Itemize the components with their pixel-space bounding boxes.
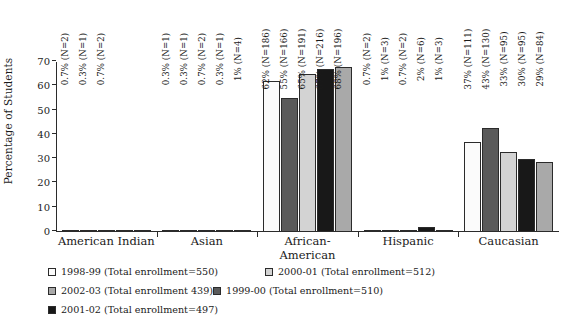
bar-value-label: 0.7% (N=2)	[60, 33, 70, 85]
bar-slot: 0.7% (N=2)	[400, 62, 417, 232]
bar-value-label: 65% (N=191)	[297, 29, 307, 90]
bar-slot	[134, 62, 151, 232]
bar-slot: 0.3% (N=1)	[80, 62, 97, 232]
bar[interactable]: 0.7% (N=2)	[364, 230, 381, 232]
bar[interactable]: 0.3% (N=1)	[80, 230, 97, 232]
bar[interactable]: 37% (N=111)	[464, 142, 481, 232]
bar[interactable]: 1% (N=4)	[234, 230, 251, 232]
bar-value-label: 62% (N=186)	[261, 29, 271, 90]
bar-group: 37% (N=111)43% (N=130)33% (N=95)30% (N=9…	[458, 62, 559, 232]
bar[interactable]: 65% (N=191)	[299, 74, 316, 232]
bar-value-label: 29% (N=84)	[535, 31, 545, 86]
bar[interactable]: 0.7% (N=2)	[62, 230, 79, 232]
bar[interactable]: 2% (N=6)	[418, 227, 435, 232]
legend-swatch-icon	[48, 287, 56, 295]
category-label: Hispanic	[358, 234, 459, 252]
bar[interactable]: 33% (N=95)	[500, 152, 517, 232]
bar-value-label: 0.7% (N=2)	[96, 33, 106, 85]
bar[interactable]	[116, 230, 133, 232]
bar[interactable]: 55% (N=166)	[281, 98, 298, 232]
bar[interactable]: 67% (N=216)	[317, 69, 334, 232]
bar[interactable]: 0.7% (N=2)	[98, 230, 115, 232]
bar-value-label: 33% (N=95)	[499, 31, 509, 86]
bar-value-label: 68% (N=196)	[333, 29, 343, 90]
legend-swatch-icon	[48, 306, 56, 314]
bar-value-label: 1% (N=3)	[434, 37, 444, 81]
bar-value-label: 67% (N=216)	[315, 29, 325, 90]
bar-value-label: 1% (N=4)	[233, 37, 243, 81]
y-tick-label: 10	[28, 203, 50, 212]
bar[interactable]: 1% (N=3)	[382, 230, 399, 232]
category-label: African-American	[257, 234, 358, 252]
bar[interactable]	[134, 230, 151, 232]
bar-slot: 30% (N=95)	[518, 62, 535, 232]
bar-slot: 33% (N=95)	[500, 62, 517, 232]
bar[interactable]: 0.7% (N=2)	[400, 230, 417, 232]
legend-item[interactable]: 1999-00 (Total enrollment=510)	[213, 281, 430, 300]
bar[interactable]: 29% (N=84)	[536, 162, 553, 232]
bar-slot: 0.7% (N=2)	[364, 62, 381, 232]
y-tick-label: 70	[28, 57, 50, 66]
legend-item[interactable]: 2000-01 (Total enrollment=512)	[265, 262, 440, 281]
category-label: American Indian	[56, 234, 157, 252]
y-tick-label: 40	[28, 130, 50, 139]
bar-slot: 43% (N=130)	[482, 62, 499, 232]
y-axis-title: Percentage of Students	[2, 0, 18, 46]
chart-legend: 1998-99 (Total enrollment=550)2000-01 (T…	[48, 262, 563, 319]
bar-slot: 1% (N=3)	[382, 62, 399, 232]
bar-value-label: 0.7% (N=2)	[362, 33, 372, 85]
bar-groups: 0.7% (N=2)0.3% (N=1)0.7% (N=2)0.3% (N=1)…	[56, 62, 559, 232]
bar-slot: 0.7% (N=2)	[198, 62, 215, 232]
bar-value-label: 1% (N=3)	[380, 37, 390, 81]
y-tick-label: 20	[28, 178, 50, 187]
legend-label: 2001-02 (Total enrollment=497)	[61, 304, 218, 315]
bar[interactable]: 0.3% (N=1)	[216, 230, 233, 232]
bar-slot: 29% (N=84)	[536, 62, 553, 232]
bar-slot: 0.3% (N=1)	[162, 62, 179, 232]
bar-value-label: 0.3% (N=1)	[78, 33, 88, 85]
legend-item[interactable]: 2002-03 (Total enrollment 439)	[48, 281, 213, 300]
legend-item[interactable]: 1998-99 (Total enrollment=550)	[48, 262, 265, 281]
bar-slot: 2% (N=6)	[418, 62, 435, 232]
legend-item[interactable]: 2001-02 (Total enrollment=497)	[48, 300, 223, 319]
bar[interactable]: 0.3% (N=1)	[180, 230, 197, 232]
y-tick-mark	[52, 60, 56, 61]
bar-slot: 0.7% (N=2)	[98, 62, 115, 232]
bar[interactable]: 1% (N=3)	[436, 230, 453, 232]
bar[interactable]: 30% (N=95)	[518, 159, 535, 232]
bar-value-label: 55% (N=166)	[279, 29, 289, 90]
bar[interactable]: 43% (N=130)	[482, 128, 499, 232]
y-tick-label: 60	[28, 81, 50, 90]
bar[interactable]: 62% (N=186)	[263, 81, 280, 232]
bar-group: 62% (N=186)55% (N=166)65% (N=191)67% (N=…	[257, 62, 358, 232]
y-tick-label: 30	[28, 154, 50, 163]
bar-slot: 67% (N=216)	[317, 62, 334, 232]
legend-label: 2000-01 (Total enrollment=512)	[278, 266, 435, 277]
bar-slot: 0.3% (N=1)	[216, 62, 233, 232]
plot-area: 010203040506070 0.7% (N=2)0.3% (N=1)0.7%…	[56, 62, 559, 232]
bar-group: 0.7% (N=2)1% (N=3)0.7% (N=2)2% (N=6)1% (…	[358, 62, 459, 232]
bar[interactable]: 0.7% (N=2)	[198, 230, 215, 232]
bar-value-label: 0.3% (N=1)	[215, 33, 225, 85]
bar-value-label: 0.3% (N=1)	[161, 33, 171, 85]
bar-slot: 65% (N=191)	[299, 62, 316, 232]
bar-slot: 0.3% (N=1)	[180, 62, 197, 232]
bar[interactable]: 0.3% (N=1)	[162, 230, 179, 232]
bar-slot: 68% (N=196)	[335, 62, 352, 232]
bar-slot: 37% (N=111)	[464, 62, 481, 232]
bar-slot: 1% (N=4)	[234, 62, 251, 232]
bar-group: 0.7% (N=2)0.3% (N=1)0.7% (N=2)	[56, 62, 157, 232]
bar[interactable]: 68% (N=196)	[335, 67, 352, 232]
legend-swatch-icon	[265, 268, 273, 276]
y-tick-label: 0	[28, 227, 50, 236]
bar-slot: 62% (N=186)	[263, 62, 280, 232]
bar-value-label: 0.7% (N=2)	[197, 33, 207, 85]
bar-slot	[116, 62, 133, 232]
bar-value-label: 30% (N=95)	[517, 31, 527, 86]
category-label: Caucasian	[458, 234, 559, 252]
legend-label: 1999-00 (Total enrollment=510)	[226, 285, 383, 296]
legend-swatch-icon	[48, 268, 56, 276]
bar-value-label: 37% (N=111)	[463, 29, 473, 90]
bar-value-label: 43% (N=130)	[481, 29, 491, 90]
bar-value-label: 0.3% (N=1)	[179, 33, 189, 85]
